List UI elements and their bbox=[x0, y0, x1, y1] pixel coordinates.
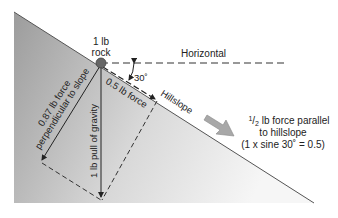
callout-line-3: (1 x sine 30˚ = 0.5) bbox=[241, 139, 325, 150]
direction-arrow-icon bbox=[204, 115, 234, 136]
callout-line-1: 1/2 lb force parallel bbox=[248, 115, 329, 127]
callout-line-2: to hillslope bbox=[259, 127, 307, 138]
angle-label: 30˚ bbox=[134, 72, 148, 83]
rock-label-name: rock bbox=[92, 47, 112, 58]
rock-label-weight: 1 lb bbox=[93, 36, 110, 47]
horizontal-label: Horizontal bbox=[181, 48, 226, 59]
gravity-label: 1 lb pull of gravity bbox=[88, 104, 99, 178]
hillslope-force-diagram: 1 lb rock Horizontal 30˚ 0.5 lb force Hi… bbox=[0, 0, 338, 218]
rock-icon bbox=[96, 58, 106, 68]
